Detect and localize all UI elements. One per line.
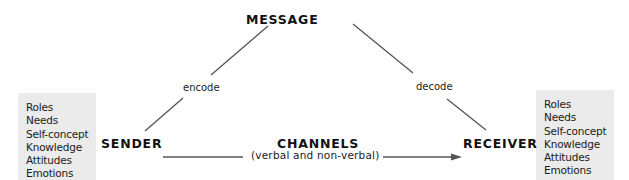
receiver-node: RECEIVER [463,136,538,151]
sender-attribute: Roles [26,101,88,114]
receiver-attribute: Self-concept [544,125,606,138]
sender-attribute: Knowledge [26,141,88,154]
sender-attributes-list: Roles Needs Self-concept Knowledge Attit… [26,101,88,180]
decode-label: decode [416,81,453,92]
arrowhead-icon [451,154,462,161]
sender-node: SENDER [101,136,162,151]
receiver-attribute: Attitudes [544,151,606,164]
receiver-attributes-list: Roles Needs Self-concept Knowledge Attit… [544,98,606,178]
sender-attribute: Attitudes [26,154,88,167]
encode-line-upper [211,26,268,75]
encode-label: encode [183,82,220,93]
sender-attribute: Emotions [26,167,88,180]
decode-line-upper [353,24,413,73]
receiver-attribute: Emotions [544,164,606,177]
decode-line-lower [447,99,486,130]
sender-attributes-box: Roles Needs Self-concept Knowledge Attit… [18,93,96,180]
receiver-attribute: Knowledge [544,138,606,151]
message-node: MESSAGE [246,12,319,27]
receiver-attribute: Roles [544,98,606,111]
sender-attribute: Self-concept [26,128,88,141]
sender-attribute: Needs [26,114,88,127]
encode-line-lower [145,98,183,131]
receiver-attributes-box: Roles Needs Self-concept Knowledge Attit… [536,90,614,180]
receiver-attribute: Needs [544,111,606,124]
channels-sublabel: (verbal and non-verbal) [251,149,379,161]
